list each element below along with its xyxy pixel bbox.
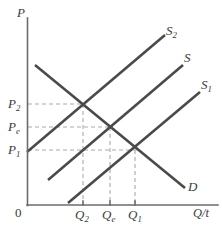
quantity-tick-q2-base: Q — [75, 207, 84, 222]
quantity-tick-q2-sub: 2 — [84, 214, 88, 224]
x-axis-title: Q/t — [193, 207, 209, 220]
curve-label-d: D — [188, 180, 197, 193]
supply-demand-figure: P Q/t 0 P2 Pe P1 Q2 Qe Q1 S2 S S1 D — [0, 0, 222, 228]
price-tick-p1-base: P — [8, 142, 16, 157]
price-tick-p2-base: P — [8, 96, 16, 111]
quantity-tick-qe: Qe — [102, 208, 115, 221]
quantity-tick-q2: Q2 — [75, 208, 89, 221]
quantity-tick-q1: Q1 — [128, 208, 142, 221]
curve-label-s1: S1 — [201, 78, 212, 91]
curve-label-s2: S2 — [166, 24, 177, 37]
curve-label-s1-base: S — [201, 77, 208, 92]
price-tick-p1-sub: 1 — [16, 149, 20, 159]
price-tick-p2: P2 — [8, 97, 20, 110]
price-tick-pe-sub: e — [16, 126, 20, 136]
curve-label-s: S — [184, 51, 191, 64]
quantity-tick-q1-sub: 1 — [137, 214, 141, 224]
quantity-tick-qe-sub: e — [111, 214, 115, 224]
supply-curve-s2 — [27, 35, 165, 152]
y-axis-title: P — [17, 6, 25, 19]
price-tick-p2-sub: 2 — [16, 103, 20, 113]
axes — [27, 18, 218, 206]
curves — [27, 35, 200, 203]
quantity-tick-qe-base: Q — [102, 207, 111, 222]
price-tick-pe-base: P — [8, 119, 16, 134]
origin-label: 0 — [15, 206, 22, 219]
price-tick-p1: P1 — [8, 143, 20, 156]
curve-label-s2-base: S — [166, 23, 173, 38]
quantity-tick-q1-base: Q — [128, 207, 137, 222]
curve-label-s1-sub: 1 — [208, 84, 212, 94]
curve-label-s2-sub: 2 — [173, 30, 177, 40]
curve-label-d-base: D — [188, 179, 197, 194]
price-tick-pe: Pe — [8, 120, 20, 133]
curve-label-s-base: S — [184, 50, 191, 65]
